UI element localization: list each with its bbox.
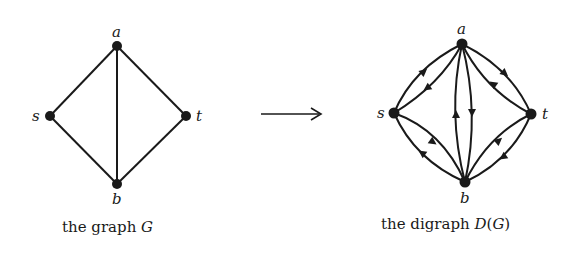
node-s [389,108,400,119]
edge-s-b [50,116,117,184]
arc-b-to-t [465,114,531,182]
caption-symbol-d: D [473,215,486,233]
node-label-t: t [196,107,203,125]
caption-symbol-g: G [141,218,153,236]
caption-prefix: the digraph [381,215,474,233]
node-label-s: s [32,107,40,125]
node-s [45,111,55,121]
node-label-b: b [112,190,122,208]
edge-s-a [50,46,117,116]
arc-t-to-b [465,114,531,182]
node-label-s: s [377,104,385,122]
arrowhead-a-to-b [468,109,476,117]
arc-s-to-b [394,113,465,182]
arrowheads [416,66,511,163]
node-b [112,179,122,189]
node-a [457,39,468,50]
caption-paren-close: ) [504,215,510,233]
caption-prefix: the graph [62,218,141,236]
node-label-b: b [460,189,470,207]
arc-s-to-a [394,44,462,113]
arrowhead-s-to-b [428,137,439,148]
node-label-t: t [542,105,549,123]
transform-arrow-icon [261,108,321,120]
digraph-dg: a s t b the digraph D(G) [377,20,549,233]
node-label-a: a [112,23,121,41]
diagram-canvas: a s t b the graph G [0,0,578,255]
node-b [460,177,471,188]
arrowhead-b-to-a [452,110,460,118]
caption-symbol-g: G [492,215,504,233]
graph-g: a s t b the graph G [32,23,203,236]
arc-b-to-s [394,113,465,182]
node-t [181,111,191,121]
arc-a-to-s [394,44,462,113]
node-a [112,41,122,51]
node-label-a: a [457,20,466,38]
caption-digraph-dg: the digraph D(G) [381,215,510,233]
caption-graph-g: the graph G [62,218,153,236]
edge-a-t [117,46,186,116]
node-t [526,109,537,120]
edge-b-t [117,116,186,184]
